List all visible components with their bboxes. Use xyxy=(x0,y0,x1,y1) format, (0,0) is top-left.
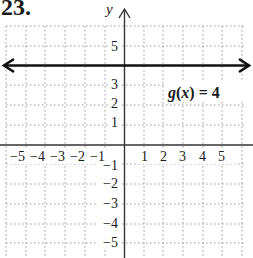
y-axis-label: y xyxy=(104,1,113,17)
function-value: 4 xyxy=(212,84,220,101)
function-close-paren: ) = xyxy=(189,84,211,102)
function-label: g(x) = 4 xyxy=(167,84,220,102)
x-tick-label: −4 xyxy=(30,149,45,164)
y-tick-label: 3 xyxy=(111,77,118,92)
x-tick-label: 1 xyxy=(141,149,148,164)
problem-number: 23. xyxy=(1,0,31,20)
x-tick-label: 4 xyxy=(199,149,206,164)
y-tick-label: −1 xyxy=(103,158,118,173)
x-tick-label: −2 xyxy=(70,149,85,164)
function-name: g xyxy=(167,84,176,102)
function-arg: x xyxy=(180,84,189,101)
y-tick-label: −2 xyxy=(103,176,118,191)
x-tick-label: −5 xyxy=(10,149,25,164)
y-tick-label: 2 xyxy=(111,96,118,111)
x-tick-label: −3 xyxy=(50,149,65,164)
x-tick-label: 3 xyxy=(179,149,186,164)
y-tick-label: −4 xyxy=(103,216,118,231)
grid xyxy=(6,26,245,258)
x-tick-label: 2 xyxy=(160,149,167,164)
y-tick-label: 1 xyxy=(111,115,118,130)
y-tick-label: −3 xyxy=(103,196,118,211)
graph-figure: 23. y 5 3 2 1 −5 −4 −3 −2 −1 1 2 3 4 5 −… xyxy=(0,0,253,258)
x-tick-label: 5 xyxy=(218,149,225,164)
y-tick-label: 5 xyxy=(111,39,118,54)
y-tick-label: −5 xyxy=(103,235,118,250)
